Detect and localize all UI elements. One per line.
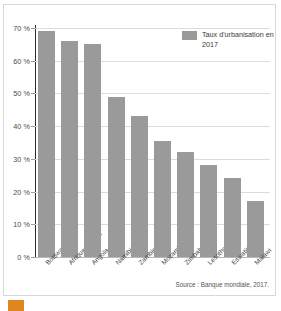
bar [200, 165, 217, 257]
caption-strip [3, 299, 276, 311]
legend-label: Taux d'urbanisation en 2017 [202, 30, 275, 49]
bar [131, 116, 148, 257]
caption-marker-icon [8, 300, 24, 311]
gridline [35, 28, 270, 29]
bar [177, 152, 194, 257]
y-axis-label: 10 % [4, 220, 30, 229]
chart-figure: 0 %10 %20 %30 %40 %50 %60 %70 %BotswanaA… [3, 4, 276, 296]
bar [154, 141, 171, 257]
y-axis-tick [31, 28, 35, 29]
y-axis-label: 40 % [4, 122, 30, 131]
bar [84, 44, 101, 257]
y-axis-tick [31, 93, 35, 94]
bar [38, 31, 55, 257]
y-axis-tick [31, 257, 35, 258]
y-axis-tick [31, 224, 35, 225]
bar [108, 97, 125, 257]
bar [247, 201, 264, 257]
bar [224, 178, 241, 257]
y-axis-label: 70 % [4, 24, 30, 33]
y-axis-label: 30 % [4, 155, 30, 164]
source-note: Source : Banque mondiale, 2017. [176, 281, 269, 288]
y-axis-tick [31, 159, 35, 160]
chart-legend: Taux d'urbanisation en 2017 [182, 30, 275, 49]
y-axis-label: 20 % [4, 188, 30, 197]
y-axis-label: 50 % [4, 89, 30, 98]
y-axis-tick [31, 192, 35, 193]
legend-swatch-icon [182, 31, 197, 40]
bar [61, 41, 78, 257]
y-axis-tick [31, 61, 35, 62]
y-axis-label: 60 % [4, 57, 30, 66]
y-axis-tick [31, 126, 35, 127]
y-axis-label: 0 % [4, 253, 30, 262]
